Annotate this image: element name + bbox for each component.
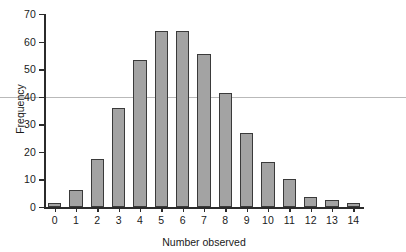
y-tick-0 (39, 207, 44, 208)
x-tick-9 (247, 207, 248, 212)
y-tick-20 (39, 152, 44, 153)
bar-3 (112, 108, 125, 207)
x-tick-label-7: 7 (201, 214, 207, 226)
x-tick-7 (204, 207, 205, 212)
y-tick-label-60: 60 (24, 36, 36, 48)
bar-0 (48, 203, 61, 207)
x-tick-label-13: 13 (326, 214, 338, 226)
x-tick-4 (140, 207, 141, 212)
x-tick-label-12: 12 (305, 214, 317, 226)
x-tick-3 (119, 207, 120, 212)
bar-12 (304, 197, 317, 207)
bar-8 (219, 93, 232, 207)
bar-11 (283, 179, 296, 207)
x-tick-label-1: 1 (73, 214, 79, 226)
x-tick-label-2: 2 (94, 214, 100, 226)
y-tick-50 (39, 69, 44, 70)
plot-area: 010203040506070 01234567891011121314 (44, 14, 364, 207)
y-tick-label-0: 0 (30, 201, 36, 213)
x-tick-label-8: 8 (222, 214, 228, 226)
y-axis (44, 14, 46, 209)
x-tick-1 (76, 207, 77, 212)
histogram-figure: 010203040506070 01234567891011121314 Fre… (0, 0, 406, 252)
x-tick-label-14: 14 (347, 214, 359, 226)
y-tick-label-10: 10 (24, 173, 36, 185)
bar-10 (261, 162, 274, 207)
bar-9 (240, 133, 253, 207)
bar-2 (91, 159, 104, 207)
x-tick-13 (332, 207, 333, 212)
x-tick-0 (55, 207, 56, 212)
y-tick-60 (39, 42, 44, 43)
y-tick-70 (39, 14, 44, 15)
bar-4 (133, 60, 146, 208)
x-tick-12 (311, 207, 312, 212)
y-axis-label: Frequency (14, 69, 26, 149)
x-tick-label-0: 0 (52, 214, 58, 226)
x-tick-14 (353, 207, 354, 212)
y-tick-40 (39, 97, 44, 98)
y-tick-30 (39, 124, 44, 125)
x-tick-label-3: 3 (116, 214, 122, 226)
bar-7 (197, 54, 210, 207)
x-axis-label: Number observed (44, 236, 364, 248)
y-tick-label-70: 70 (24, 8, 36, 20)
x-tick-label-4: 4 (137, 214, 143, 226)
x-tick-label-9: 9 (244, 214, 250, 226)
x-tick-10 (268, 207, 269, 212)
x-tick-6 (183, 207, 184, 212)
bar-1 (69, 190, 82, 207)
bar-13 (325, 200, 338, 207)
bar-5 (155, 31, 168, 207)
x-tick-label-11: 11 (284, 214, 295, 226)
x-tick-label-5: 5 (158, 214, 164, 226)
x-tick-2 (97, 207, 98, 212)
x-tick-label-10: 10 (262, 214, 274, 226)
x-tick-label-6: 6 (180, 214, 186, 226)
x-tick-8 (225, 207, 226, 212)
x-tick-11 (289, 207, 290, 212)
x-tick-5 (161, 207, 162, 212)
bar-14 (347, 203, 360, 207)
y-tick-10 (39, 179, 44, 180)
bar-6 (176, 31, 189, 207)
